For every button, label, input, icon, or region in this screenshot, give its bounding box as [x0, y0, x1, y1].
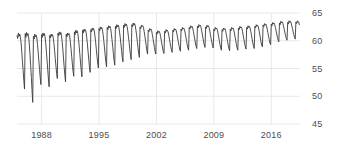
series-group: [17, 21, 299, 103]
series-line-1: [17, 21, 299, 103]
x-tick-label: 2009: [203, 130, 224, 140]
y-tick-label: 50: [312, 91, 322, 101]
x-tick-label: 1995: [89, 130, 110, 140]
chart-container: 6560555045 19881995200220092016: [0, 0, 343, 152]
y-tick-label: 65: [312, 8, 322, 18]
y-tick-label: 60: [312, 36, 322, 46]
x-tick-label: 2002: [146, 130, 167, 140]
y-tick-label: 55: [312, 64, 322, 74]
x-tick-label: 2016: [261, 130, 282, 140]
grid-lines: [17, 13, 300, 124]
y-tick-label: 45: [312, 119, 322, 129]
x-tick-label: 1988: [31, 130, 52, 140]
